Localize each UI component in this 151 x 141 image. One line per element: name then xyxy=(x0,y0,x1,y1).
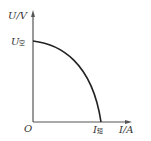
origin-label: O xyxy=(24,124,32,134)
y-axis-arrow-icon xyxy=(31,10,35,17)
graph-svg xyxy=(0,0,151,141)
u-subscript: 空 xyxy=(19,39,25,46)
u-i-curve xyxy=(33,41,101,122)
i-short-circuit-label: I短 xyxy=(93,125,103,135)
i-subscript: 短 xyxy=(97,127,103,134)
y-axis-label: U/V xyxy=(8,11,27,21)
u-open-circuit-label: U空 xyxy=(11,37,25,47)
x-axis-label: I/A xyxy=(119,125,134,135)
u-i-graph: U/V U空 O I短 I/A xyxy=(0,0,151,141)
